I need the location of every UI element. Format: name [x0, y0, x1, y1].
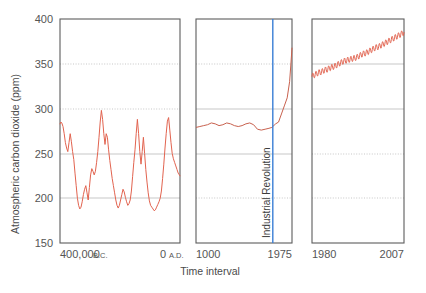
- x-tick-1975: 1975: [268, 248, 292, 260]
- panel-frame-2: [196, 19, 292, 243]
- co2-series-keeling: [312, 31, 404, 78]
- x-axis-title: Time interval: [180, 265, 240, 277]
- x-tick-1980: 1980: [312, 248, 336, 260]
- panel-frame-3: [312, 19, 404, 243]
- y-tick-150: 150: [35, 237, 53, 249]
- historical-panel: Industrial Revolution 1000 1975: [196, 19, 292, 260]
- industrial-revolution-label: Industrial Revolution: [261, 147, 272, 238]
- y-axis-ticks: 400 350 300 250 200 150: [35, 13, 53, 249]
- keeling-panel: 1980 2007: [312, 19, 404, 260]
- x-tick-400000bc-suffix: B.C.: [93, 251, 108, 260]
- y-tick-200: 200: [35, 192, 53, 204]
- y-tick-400: 400: [35, 13, 53, 25]
- co2-series-historical: [196, 48, 292, 130]
- y-tick-300: 300: [35, 103, 53, 115]
- x-tick-2007: 2007: [380, 248, 404, 260]
- x-tick-1000: 1000: [196, 248, 220, 260]
- y-axis-title-group: Atmospheric carbon dioxide (ppm): [9, 74, 21, 234]
- co2-chart-svg: Atmospheric carbon dioxide (ppm) 400 350…: [0, 0, 426, 293]
- panel-frame-1: [60, 19, 180, 243]
- y-tick-250: 250: [35, 148, 53, 160]
- x-tick-0ad-suffix: A.D.: [169, 251, 184, 260]
- y-tick-350: 350: [35, 58, 53, 70]
- y-axis-title: Atmospheric carbon dioxide (ppm): [9, 74, 21, 234]
- x-tick-0ad: 0: [160, 248, 166, 260]
- ice-core-panel: 400,000 B.C. 0 A.D.: [60, 19, 184, 260]
- co2-series-ice-core: [60, 110, 180, 210]
- chart-figure: Atmospheric carbon dioxide (ppm) 400 350…: [0, 0, 426, 293]
